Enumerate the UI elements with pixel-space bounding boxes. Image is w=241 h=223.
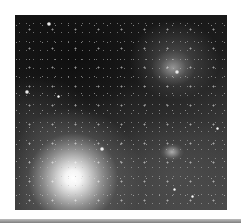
astronomical-photo: [15, 15, 227, 210]
star: [57, 95, 60, 98]
star: [100, 147, 104, 151]
star: [25, 90, 29, 94]
star: [175, 70, 179, 74]
star: [216, 127, 219, 130]
star: [47, 22, 51, 26]
bottom-divider: [0, 219, 241, 223]
star: [173, 188, 176, 191]
star-field: [15, 15, 227, 210]
star: [191, 195, 194, 198]
